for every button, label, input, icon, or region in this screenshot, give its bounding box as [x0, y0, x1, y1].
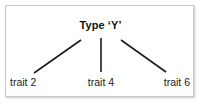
- leaf-node-trait-2: trait 2: [10, 76, 36, 88]
- tree-diagram: Type ‘Y’ trait 2 trait 4 trait 6: [0, 0, 201, 107]
- edge-root-to-trait-6: [121, 40, 166, 72]
- leaf-node-row: trait 2 trait 4 trait 6: [8, 76, 193, 88]
- edge-root-to-trait-2: [34, 40, 81, 73]
- leaf-node-trait-4: trait 4: [88, 76, 114, 88]
- connector-lines: [0, 0, 201, 107]
- leaf-node-trait-6: trait 6: [164, 76, 190, 88]
